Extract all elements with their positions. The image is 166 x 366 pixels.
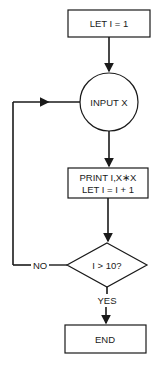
no-label: NO — [33, 260, 47, 271]
decision-label: I > 10? — [92, 260, 121, 271]
process-box: PRINT I,X∗X LET I = I + 1 — [68, 168, 148, 198]
end-box: END — [65, 325, 146, 353]
input-node: INPUT X — [80, 73, 138, 131]
yes-label: YES — [97, 295, 116, 306]
decision-diamond: I > 10? — [67, 243, 147, 287]
process-line-1: PRINT I,X∗X — [80, 172, 138, 183]
flowchart: LET I = 1 INPUT X PRINT I,X∗X LET I = I … — [0, 0, 166, 366]
input-node-label: INPUT X — [90, 97, 128, 108]
process-line-2: LET I = I + 1 — [82, 184, 134, 195]
start-box: LET I = 1 — [68, 10, 150, 37]
start-box-label: LET I = 1 — [90, 18, 129, 29]
end-box-label: END — [95, 334, 115, 345]
